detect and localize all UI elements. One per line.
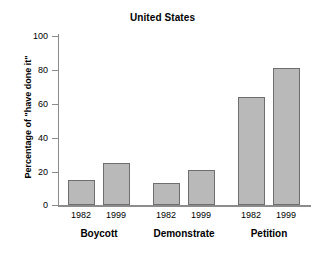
x-axis-line <box>58 205 311 207</box>
x-tick-label-demonstrate-1999: 1999 <box>181 210 221 220</box>
x-tick-label-boycott-1982: 1982 <box>61 210 101 220</box>
y-tick-mark-40 <box>52 138 58 139</box>
bar-boycott-1982 <box>68 180 95 205</box>
x-tick-label-petition-1982: 1982 <box>231 210 271 220</box>
bar-boycott-1999 <box>103 163 130 205</box>
y-tick-mark-60 <box>52 104 58 105</box>
y-tick-label-20: 20 <box>8 168 48 177</box>
y-axis-line <box>58 34 59 206</box>
plot-area: 100 80 60 40 20 0 1982 1999 1982 1999 19… <box>0 0 325 255</box>
x-group-label-petition: Petition <box>209 228 325 239</box>
x-tick-label-demonstrate-1982: 1982 <box>146 210 186 220</box>
y-tick-label-60: 60 <box>8 100 48 109</box>
y-tick-label-40: 40 <box>8 134 48 143</box>
y-tick-mark-0 <box>52 205 58 206</box>
bar-petition-1982 <box>238 97 265 205</box>
x-tick-label-petition-1999: 1999 <box>266 210 306 220</box>
bar-chart-figure: United States Percentage of "have done i… <box>0 0 325 255</box>
y-tick-mark-100 <box>52 36 58 37</box>
y-tick-label-0: 0 <box>8 201 48 210</box>
bar-demonstrate-1999 <box>188 170 215 205</box>
x-tick-label-boycott-1999: 1999 <box>96 210 136 220</box>
y-tick-mark-20 <box>52 172 58 173</box>
bar-petition-1999 <box>273 68 300 205</box>
y-tick-label-100: 100 <box>8 32 48 41</box>
bar-demonstrate-1982 <box>153 183 180 205</box>
y-tick-label-80: 80 <box>8 66 48 75</box>
y-tick-mark-80 <box>52 70 58 71</box>
